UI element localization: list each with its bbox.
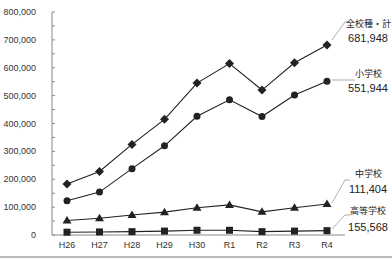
circle-marker <box>96 189 103 196</box>
series-label-value: 551,944 <box>348 82 388 94</box>
x-tick-label: H30 <box>189 240 206 250</box>
line-chart: 0100,000200,000300,000400,000500,000600,… <box>0 0 392 260</box>
circle-marker <box>291 92 298 99</box>
x-tick-label: R4 <box>321 240 333 250</box>
series-label-value: 111,404 <box>349 183 387 195</box>
x-axis: H26H27H28H29H30R1R2R3R4 <box>52 235 345 250</box>
circle-marker <box>226 96 233 103</box>
x-tick-label: R3 <box>289 240 301 250</box>
series-label-name: 全校種・計 <box>346 18 391 29</box>
y-axis: 0100,000200,000300,000400,000500,000600,… <box>3 7 55 240</box>
series-square <box>64 227 331 236</box>
triangle-marker <box>225 200 234 208</box>
series-label-name: 小学校 <box>355 68 382 79</box>
series-triangle <box>63 199 332 223</box>
y-tick-label: 600,000 <box>3 63 36 73</box>
x-tick-label: H26 <box>59 240 76 250</box>
x-tick-label: H28 <box>124 240 141 250</box>
circle-marker <box>324 78 331 85</box>
series-label-name: 高等学校 <box>350 205 386 216</box>
y-tick-label: 800,000 <box>3 7 36 17</box>
bottom-divider <box>0 256 392 258</box>
x-tick-label: H27 <box>91 240 108 250</box>
diamond-marker <box>63 179 72 188</box>
series-label-name: 中学校 <box>355 168 382 179</box>
square-marker <box>64 229 71 236</box>
circle-marker <box>161 142 168 149</box>
square-marker <box>324 227 331 234</box>
x-tick-label: R2 <box>256 240 268 250</box>
square-marker <box>194 227 201 234</box>
triangle-marker <box>323 199 332 207</box>
series-label-value: 155,568 <box>348 221 388 233</box>
circle-marker <box>64 197 71 204</box>
series-circle <box>64 78 331 205</box>
y-tick-label: 100,000 <box>3 202 36 212</box>
square-marker <box>129 228 136 235</box>
x-tick-label: R1 <box>224 240 236 250</box>
y-tick-label: 500,000 <box>3 91 36 101</box>
square-marker <box>96 228 103 235</box>
y-tick-label: 200,000 <box>3 174 36 184</box>
square-marker <box>259 228 266 235</box>
circle-marker <box>194 113 201 120</box>
y-tick-label: 300,000 <box>3 146 36 156</box>
y-tick-label: 700,000 <box>3 35 36 45</box>
series-group <box>63 40 332 235</box>
y-tick-label: 0 <box>31 230 36 240</box>
diamond-marker <box>323 40 332 49</box>
direct-labels: 全校種・計681,948小学校551,944中学校111,404高等学校155,… <box>332 18 391 233</box>
circle-marker <box>129 165 136 172</box>
series-label-value: 681,948 <box>348 32 388 44</box>
x-tick-label: H29 <box>156 240 173 250</box>
square-marker <box>291 228 298 235</box>
circle-marker <box>259 113 266 120</box>
y-tick-label: 400,000 <box>3 119 36 129</box>
square-marker <box>226 227 233 234</box>
square-marker <box>161 228 168 235</box>
